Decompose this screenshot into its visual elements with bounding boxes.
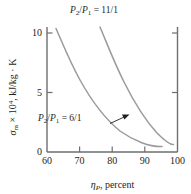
curve-11-to-1 [100, 27, 174, 145]
annotation-label-11-to-1: P2/P1 = 11/1 [70, 6, 118, 17]
y-tick-label-0: 0 [22, 147, 42, 157]
x-axis-title: ηP, percent [47, 174, 178, 192]
y-axis-title: σm × 104, kJ/kg · K [2, 37, 20, 157]
note11-equals: = 11/1 [91, 5, 118, 15]
y-axis-units: , kJ/kg · K [7, 59, 18, 101]
y-axis-exponent: 4 [7, 101, 15, 105]
x-tick-label-80: 80 [100, 156, 124, 166]
y-axis-times-ten: × 10 [7, 104, 18, 125]
x-axis-ticks [80, 147, 145, 153]
y-axis-sigma-sub: m [12, 125, 20, 130]
x-axis-rest: , percent [100, 179, 134, 190]
y-tick-label-10: 10 [22, 28, 42, 38]
x-tick-label-70: 70 [68, 156, 92, 166]
y-axis-ticks [47, 33, 178, 93]
chart-figure: 60 70 80 90 100 0 5 10 σm × 104, kJ/kg ·… [0, 0, 191, 194]
curve-6-to-1 [56, 29, 162, 147]
y-axis-sigma: σ [7, 130, 18, 135]
annotation-label-6-to-1: P2/P1 = 6/1 [38, 114, 82, 125]
annotation-arrow-6-to-1 [110, 114, 130, 123]
x-tick-label-90: 90 [133, 156, 157, 166]
x-tick-label-100: 100 [166, 156, 190, 166]
x-tick-label-60: 60 [35, 156, 59, 166]
y-tick-label-5: 5 [22, 88, 42, 98]
note6-equals: = 6/1 [59, 113, 81, 123]
